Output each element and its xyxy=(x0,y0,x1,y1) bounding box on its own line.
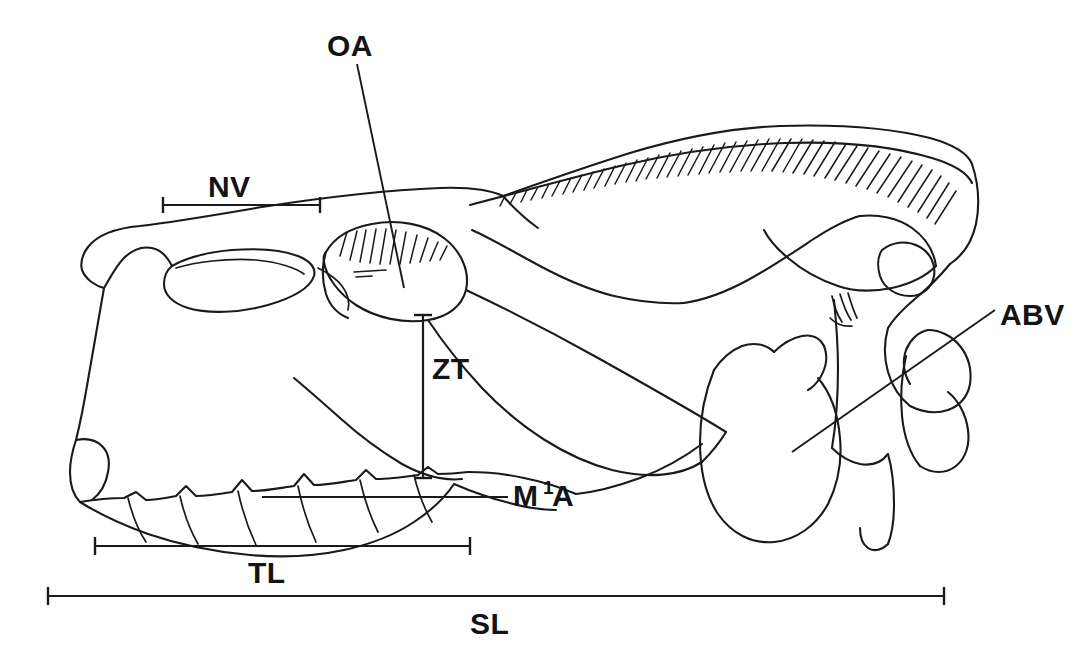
label-m1a-tail: A xyxy=(552,479,574,512)
label-tl: TL xyxy=(248,556,285,589)
label-sl: SL xyxy=(470,607,509,640)
skull-diagram: OA NV ZT M 1 A ABV TL SL xyxy=(0,0,1088,663)
label-zt: ZT xyxy=(432,352,469,385)
orbit-foramen-mark-2 xyxy=(356,276,372,277)
label-abv: ABV xyxy=(1000,298,1065,331)
label-m1a-main: M xyxy=(513,479,538,512)
label-oa: OA xyxy=(327,29,373,62)
figure-root: OA NV ZT M 1 A ABV TL SL xyxy=(0,0,1088,663)
label-nv: NV xyxy=(208,170,250,203)
